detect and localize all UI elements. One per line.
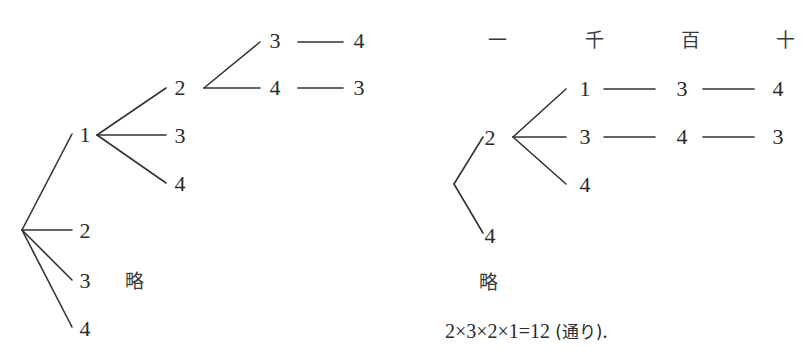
node-label: 1 <box>580 78 591 100</box>
tree-lines <box>0 0 809 362</box>
node-label: 3 <box>773 126 784 148</box>
omitted-note: 略 <box>125 270 144 292</box>
node-label: 4 <box>80 318 91 340</box>
edge-r2-4 <box>513 137 566 184</box>
count-formula: 2×3×2×1=12 (通り). <box>445 319 607 344</box>
edge-r2-1 <box>513 89 566 137</box>
node-label: 3 <box>175 125 186 147</box>
node-label: 3 <box>354 77 365 99</box>
node-label: 2 <box>80 220 91 242</box>
node-label: 2 <box>485 127 496 149</box>
column-header-hundreds: 百 <box>681 29 700 51</box>
edge-root-1 <box>22 134 72 230</box>
node-label: 2 <box>175 77 186 99</box>
edge-rroot-4 <box>454 184 483 233</box>
edge-root-4 <box>22 230 72 327</box>
column-header-thousands: 千 <box>585 29 604 51</box>
formula-expression: 2×3×2×1=12 <box>445 320 550 342</box>
edge-1-4 <box>97 135 166 183</box>
node-label: 4 <box>580 174 591 196</box>
node-label: 4 <box>677 126 688 148</box>
node-label: 3 <box>677 78 688 100</box>
node-label: 3 <box>580 126 591 148</box>
edge-2-3 <box>204 42 260 88</box>
node-label: 4 <box>485 225 496 247</box>
column-header-ones: 一 <box>488 29 507 51</box>
node-label: 3 <box>270 30 281 52</box>
node-label: 3 <box>80 270 91 292</box>
formula-unit: (通り) <box>555 322 602 342</box>
node-label: 4 <box>175 173 186 195</box>
tree-diagram: 1 2 3 4 2 3 4 3 4 4 3 略 一 千 百 十 2 4 1 3 … <box>0 0 809 362</box>
column-header-tens: 十 <box>776 29 795 51</box>
node-label: 4 <box>354 30 365 52</box>
edge-1-2 <box>97 88 166 135</box>
node-label: 1 <box>80 124 91 146</box>
omitted-note: 略 <box>479 271 498 293</box>
edge-rroot-2 <box>454 137 483 184</box>
formula-period: . <box>602 320 607 342</box>
node-label: 4 <box>270 77 281 99</box>
edge-root-3 <box>22 230 72 280</box>
node-label: 4 <box>773 78 784 100</box>
